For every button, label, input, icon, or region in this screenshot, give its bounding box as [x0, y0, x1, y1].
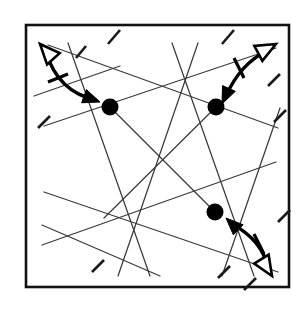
node-top-right	[208, 99, 225, 116]
geometric-line-diagram	[0, 0, 308, 309]
figure-container	[0, 0, 308, 309]
node-top-left	[102, 99, 119, 116]
node-bottom-right	[207, 204, 224, 221]
